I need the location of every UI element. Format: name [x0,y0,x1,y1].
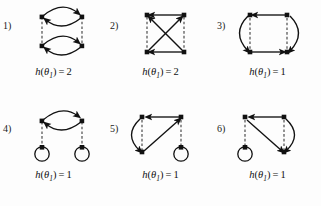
panel-2-graph [107,0,214,68]
directed-arc [150,18,182,50]
caption-close-paren: ) [267,169,271,180]
caption-close-paren: ) [53,66,57,77]
caption-equals: = [59,169,65,180]
directed-arc [43,7,78,16]
directed-arc [149,18,181,50]
panel-1-svg [0,0,107,68]
directed-arc [144,120,179,151]
graph-node [40,15,45,20]
graph-node [80,119,85,124]
panel-2: 2) [107,0,214,103]
caption-value: 1 [281,66,286,77]
graph-node [145,50,150,55]
directed-arc [132,119,141,151]
caption-value: 2 [67,66,72,77]
graph-node [282,115,287,120]
caption-value: 1 [67,169,72,180]
graph-node [40,44,45,49]
panel-2-caption: h(θ1) = 2 [107,66,214,80]
panel-5: 5) [107,103,214,206]
graph-node [80,145,85,150]
graph-node [40,145,45,150]
caption-close-paren: ) [160,66,164,77]
caption-equals: = [273,66,279,77]
caption-equals: = [59,66,65,77]
directed-arc [240,16,249,51]
caption-value: 1 [281,169,286,180]
panel-2-svg [107,0,214,68]
directed-arc [46,122,81,130]
graph-node [182,50,187,55]
panel-5-svg [107,103,214,171]
graph-node [140,115,145,120]
panel-1-graph [0,0,107,68]
graph-node [179,115,184,120]
graph-node [282,150,287,155]
directed-arc [290,16,299,51]
graph-node [248,50,253,55]
panel-1-caption: h(θ1) = 2 [0,66,107,80]
panel-3-graph [214,0,321,68]
panel-4-graph [0,103,107,171]
panel-5-caption: h(θ1) = 1 [107,169,214,183]
directed-arc [46,18,81,26]
directed-arc [247,120,282,151]
caption-value: 2 [174,66,179,77]
graph-node [285,50,290,55]
caption-equals: = [166,169,172,180]
panel-6-caption: h(θ1) = 1 [214,169,321,183]
panel-1: 1) [0,0,107,103]
panel-4-svg [0,103,107,171]
graph-node [80,15,85,20]
panel-6: 6) [214,103,321,206]
figure-canvas: 1) [0,0,321,206]
directed-arc [43,111,78,120]
panel-4: 4) [0,103,107,206]
panel-5-graph [107,103,214,171]
caption-value: 1 [174,169,179,180]
graph-node [179,145,184,150]
caption-close-paren: ) [160,169,164,180]
graph-node [248,13,253,18]
graph-node [40,119,45,124]
caption-equals: = [273,169,279,180]
caption-equals: = [166,66,172,77]
panel-4-caption: h(θ1) = 1 [0,169,107,183]
panel-3-svg [214,0,321,68]
graph-node [140,150,145,155]
caption-close-paren: ) [267,66,271,77]
graph-node [145,13,150,18]
graph-node [285,13,290,18]
directed-arc [46,47,81,55]
graph-node [243,115,248,120]
graph-node [243,145,248,150]
panel-6-svg [214,103,321,171]
directed-arc [43,36,78,45]
panel-3: 3) [214,0,321,103]
caption-close-paren: ) [53,169,57,180]
panel-6-graph [214,103,321,171]
graph-node [182,13,187,18]
panel-3-caption: h(θ1) = 1 [214,66,321,80]
graph-node [80,44,85,49]
directed-arc [286,119,295,151]
